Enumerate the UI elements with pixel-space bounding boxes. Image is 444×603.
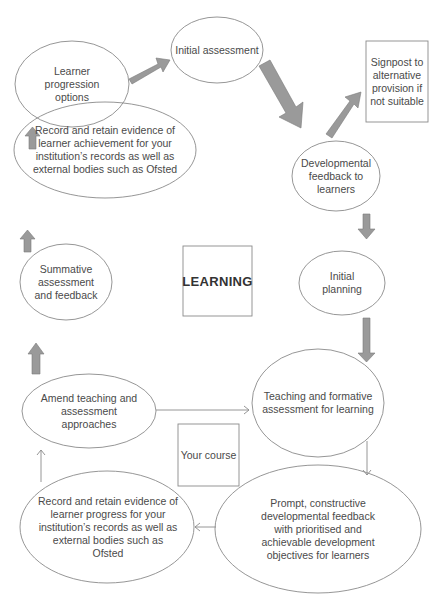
thick-arrow: [20, 230, 35, 252]
node-teaching-formative: Teaching and formative assessment for le…: [258, 383, 378, 423]
thick-arrow: [358, 318, 375, 362]
node-label: Learner progression options: [30, 65, 114, 104]
node-developmental-feedback: Developmental feedback to learners: [296, 153, 376, 199]
thick-arrow: [326, 92, 361, 138]
node-record-achievement: Record and retain evidence of learner ac…: [22, 118, 188, 182]
node-label: Summative assessment and feedback: [28, 263, 104, 302]
node-label: Prompt, constructive developmental feedb…: [251, 497, 385, 562]
node-label: Developmental feedback to learners: [300, 157, 372, 196]
node-label: Record and retain evidence of learner ac…: [32, 124, 178, 176]
node-label: Initial planning: [320, 270, 364, 296]
node-label: Record and retain evidence of learner pr…: [37, 495, 179, 560]
thick-arrow: [129, 58, 170, 84]
node-label: Initial assessment: [175, 44, 258, 57]
course-label: Your course: [181, 449, 237, 462]
thick-arrow: [28, 343, 44, 374]
node-label: Teaching and formative assessment for le…: [262, 390, 374, 416]
center-label: LEARNING: [182, 275, 252, 288]
thick-arrow: [358, 214, 375, 239]
node-learning-box: LEARNING: [183, 246, 252, 316]
node-prompt-feedback: Prompt, constructive developmental feedb…: [232, 490, 404, 568]
node-progression-options: Learner progression options: [22, 64, 122, 104]
node-label: Amend teaching and assessment approaches: [34, 392, 144, 431]
node-label: Signpost to alternative provision if not…: [367, 56, 427, 108]
node-your-course: Your course: [178, 424, 239, 486]
thick-arrow: [259, 60, 303, 128]
node-record-progress: Record and retain evidence of learner pr…: [30, 495, 186, 559]
node-summative: Summative assessment and feedback: [24, 258, 108, 306]
node-initial-planning: Initial planning: [305, 263, 379, 303]
node-signpost: Signpost to alternative provision if not…: [367, 42, 427, 121]
node-initial-assessment: Initial assessment: [175, 30, 259, 70]
node-amend-teaching: Amend teaching and assessment approaches: [28, 391, 150, 431]
